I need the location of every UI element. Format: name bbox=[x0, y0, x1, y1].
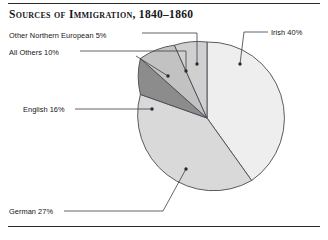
leader-dot-irish bbox=[238, 62, 241, 65]
pie-label-all-others: All Others 10% bbox=[9, 48, 59, 57]
leader-dot-english bbox=[150, 107, 153, 110]
pie-label-other-northern-european: Other Northern European 5% bbox=[9, 31, 106, 40]
pie-chart-figure: Sources of Immigration, 1840–1860 bbox=[0, 0, 328, 240]
leader-dot-other-northern-european bbox=[195, 62, 198, 65]
pie-label-german: German 27% bbox=[9, 207, 53, 216]
pie-label-english: English 16% bbox=[23, 105, 65, 114]
pie-label-irish: Irish 40% bbox=[271, 28, 302, 37]
leader-dot-all-others-secondary bbox=[166, 74, 169, 77]
leader-dot-all-others bbox=[184, 69, 187, 72]
leader-dot-german bbox=[184, 167, 187, 170]
